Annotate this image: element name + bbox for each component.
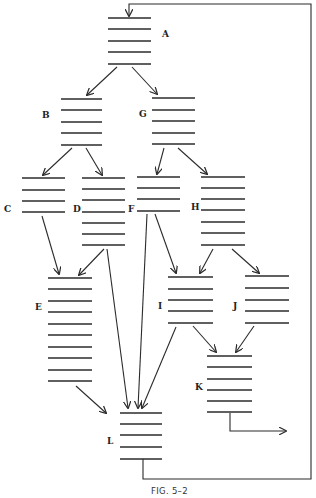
block-label: K [195, 382, 204, 392]
block-label: A [161, 29, 170, 39]
arrow-c-to-e [42, 216, 59, 274]
block-l: L [107, 413, 162, 459]
block-label: E [35, 302, 42, 312]
arrow-e-to-l [76, 386, 106, 413]
arrow-j-to-k [236, 326, 254, 352]
block-b: B [42, 99, 102, 145]
block-c: C [4, 178, 65, 214]
block-label: J [232, 301, 237, 311]
arrow-a-to-b [87, 67, 117, 95]
arrow-d-to-e [79, 249, 104, 275]
arrow-a-to-g [132, 67, 157, 94]
arrow-h-to-i [200, 249, 213, 273]
arrow-b-to-d [86, 148, 102, 175]
arrow-g-to-h [178, 148, 207, 174]
exit-arrow [230, 413, 286, 431]
arrow-f-to-l [138, 214, 147, 408]
flowchart-diagram: ABGCDFHEIJKL FIG. 5–2 [0, 0, 316, 498]
arrow-i-to-l [142, 327, 176, 408]
block-h: H [191, 177, 245, 245]
block-label: I [158, 301, 162, 311]
block-j: J [232, 276, 289, 323]
arrow-i-to-k [193, 326, 216, 352]
block-g: G [139, 98, 195, 144]
block-f: F [128, 177, 180, 214]
block-label: L [107, 436, 114, 446]
block-label: H [191, 202, 200, 212]
arrow-d-to-l [107, 249, 128, 408]
arrow-b-to-c [43, 148, 72, 175]
arrow-f-to-i [155, 214, 176, 273]
arrow-h-to-j [232, 249, 259, 273]
block-label: C [4, 204, 11, 214]
block-label: D [73, 204, 81, 214]
arrow-g-to-f [157, 148, 164, 174]
return-loop-arrow [129, 4, 311, 479]
blocks-layer: ABGCDFHEIJKL [4, 18, 289, 459]
block-label: G [139, 109, 147, 119]
arrows-layer [42, 67, 259, 413]
block-i: I [158, 277, 213, 323]
block-a: A [108, 18, 170, 64]
figure-caption: FIG. 5–2 [151, 486, 188, 496]
block-label: F [128, 204, 135, 214]
block-k: K [195, 356, 252, 412]
block-d: D [73, 178, 125, 245]
block-label: B [42, 110, 50, 120]
block-e: E [35, 278, 92, 381]
